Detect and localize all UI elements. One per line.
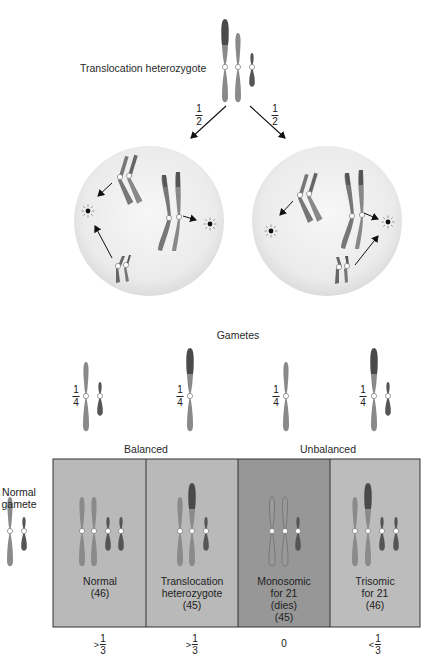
chromosome-21-icon — [249, 53, 255, 87]
centriole-icon — [265, 225, 278, 238]
gametes-title: Gametes — [217, 329, 260, 341]
frequency-monosomic: 0 — [281, 638, 287, 649]
centriole-icon — [204, 218, 217, 231]
translocation-chromosome-icon — [186, 348, 193, 431]
chromosome-14-icon — [283, 362, 289, 431]
right-branch-arrow — [250, 106, 285, 138]
gamete-probability-4: 14 — [360, 385, 367, 408]
frequency-normal: > 13 — [94, 634, 106, 655]
centriole-icon — [382, 216, 395, 229]
zygote-label-trisomic: Trisomic for 21 (46) — [355, 575, 394, 611]
zygote-label-monosomic: Monosomic for 21 (dies) (45) — [257, 575, 311, 623]
right-branch-probability: 1 2 — [272, 104, 279, 127]
cell-left — [74, 146, 224, 296]
chromosome-14-icon — [235, 33, 241, 102]
parent-label: Translocation heterozygote — [80, 62, 206, 74]
translocation-chromosome-icon — [370, 348, 377, 431]
zygote-label-translocation-heterozygote: Translocation heterozygote (45) — [161, 575, 224, 611]
translocation-chromosome-icon — [221, 19, 228, 102]
parent-chromosomes — [221, 19, 255, 102]
left-branch-probability: 1 2 — [196, 104, 203, 127]
frequency-translocation-heterozygote: > 13 — [186, 634, 198, 655]
chromosome-21-icon — [97, 382, 103, 416]
normal-gamete-label: Normal gamete — [1, 486, 36, 510]
chromosome-21-icon — [21, 517, 27, 551]
centriole-icon — [82, 205, 95, 218]
gamete-probability-2: 14 — [177, 385, 184, 408]
gamete-probability-3: 14 — [273, 385, 280, 408]
balanced-header: Balanced — [124, 443, 168, 455]
chromosome-21-icon — [385, 382, 391, 416]
frequency-trisomic: < 13 — [369, 634, 381, 655]
gametes-row — [83, 348, 391, 431]
unbalanced-header: Unbalanced — [300, 443, 356, 455]
cell-right — [252, 146, 402, 296]
chromosome-14-icon — [83, 362, 89, 431]
gamete-probability-1: 14 — [73, 385, 80, 408]
zygote-label-normal: Normal (46) — [83, 575, 117, 599]
